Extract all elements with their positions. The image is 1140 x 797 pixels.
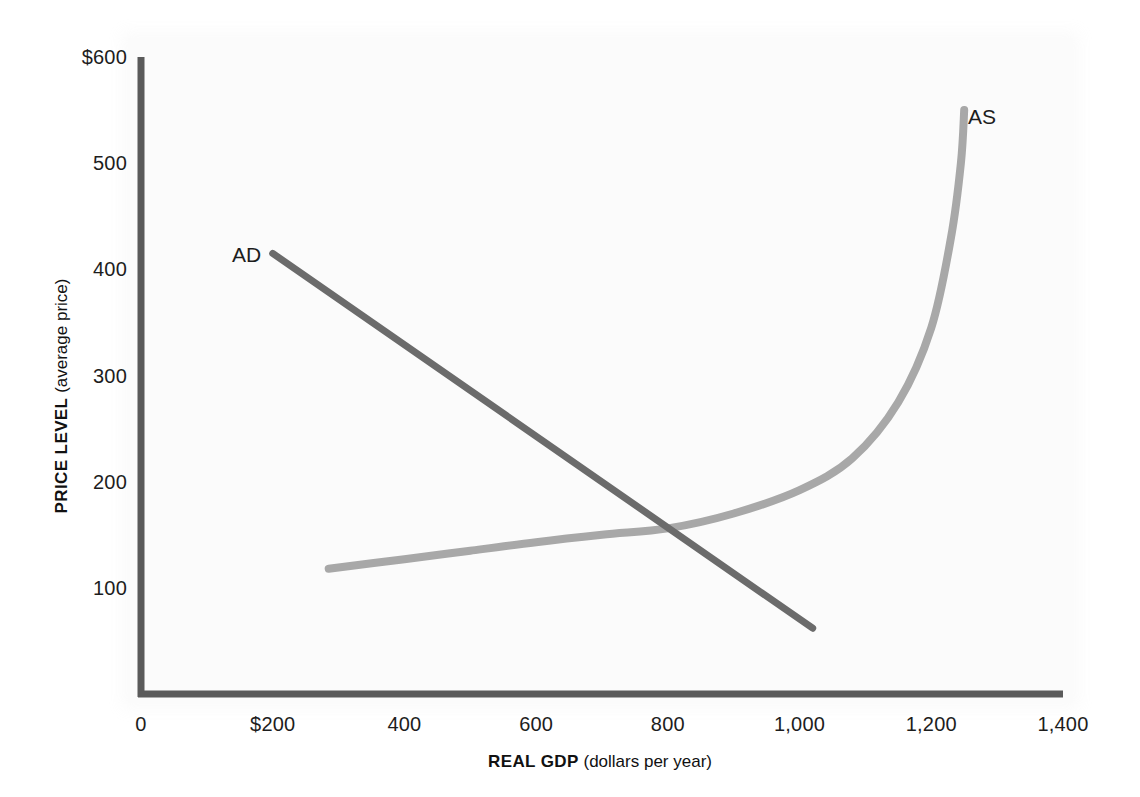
y-tick-label: 200: [0, 470, 127, 493]
x-tick-label: 800: [651, 713, 685, 736]
ad-curve-label: AD: [232, 243, 261, 267]
x-tick-label: 1,400: [1037, 713, 1088, 736]
x-tick-label: 1,000: [774, 713, 825, 736]
x-axis-title-rest: (dollars per year): [579, 752, 712, 771]
x-tick-label: 400: [387, 713, 421, 736]
y-tick-label: 300: [0, 364, 127, 387]
axes-group: [138, 57, 1063, 697]
as-curve-label: AS: [968, 105, 996, 129]
series-group: [273, 110, 965, 628]
y-tick-label: 400: [0, 258, 127, 281]
x-axis-title: REAL GDP (dollars per year): [488, 752, 712, 772]
y-tick-label: 500: [0, 152, 127, 175]
y-tick-label: 100: [0, 576, 127, 599]
as-curve: [329, 110, 965, 569]
x-tick-label: 600: [519, 713, 553, 736]
y-tick-label: $600: [0, 46, 127, 69]
ad-curve: [273, 253, 813, 628]
x-axis-title-bold: REAL GDP: [488, 752, 579, 771]
x-tick-label: $200: [250, 713, 295, 736]
x-tick-label: 0: [135, 713, 146, 736]
chart-figure: 100200300400500$600 0$2004006008001,0001…: [0, 0, 1140, 797]
x-tick-label: 1,200: [906, 713, 957, 736]
